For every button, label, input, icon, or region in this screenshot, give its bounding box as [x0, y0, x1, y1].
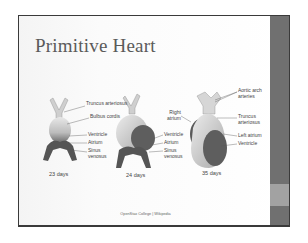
slide-title: Primitive Heart — [35, 35, 156, 57]
label-right-atrium: Right atrium — [165, 110, 181, 121]
label-sinus-venosus: Sinus venosus — [164, 148, 186, 159]
label-ventricle: Ventricle — [88, 132, 107, 138]
label-sinus-venosus: Sinus venosus — [88, 148, 110, 159]
label-bulbus-cordis: Bulbus cordis — [90, 114, 120, 120]
label-truncus-arteriosus: Truncus arteriosus — [86, 101, 127, 107]
label-aortic-arch-arteries: Aortic arch arteries — [238, 88, 272, 99]
day-label-23: 23 days — [49, 171, 68, 177]
label-atrium: Atrium — [164, 140, 178, 146]
label-truncus-arteriosus: Truncus arteriosus — [238, 114, 268, 125]
heart-development-figure: Truncus arteriosus Bulbus cordis Ventric… — [39, 88, 279, 198]
day-label-24: 24 days — [126, 172, 145, 178]
label-atrium: Atrium — [88, 140, 102, 146]
heart-23-days — [43, 98, 89, 161]
heart-35-days — [181, 92, 237, 168]
slide: Primitive Heart — [18, 15, 290, 227]
label-left-atrium: Left atrium — [238, 133, 262, 139]
image-credit: OpenStax College | Wikipedia — [19, 212, 272, 216]
day-label-35: 35 days — [202, 170, 221, 176]
label-ventricle: Ventricle — [238, 141, 257, 147]
label-ventricle: Ventricle — [164, 132, 183, 138]
